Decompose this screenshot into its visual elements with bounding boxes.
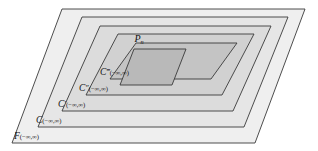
region-label-c-interval: (−∞,∞)	[42, 117, 61, 125]
region-label-pn-symbol: P	[133, 33, 140, 44]
region-label-f: F(−∞,∞)	[13, 131, 39, 141]
region-label-pn-subscript: n	[141, 38, 144, 45]
region-label-c-triple-prime-interval: (−∞,∞)	[110, 69, 129, 77]
region-label-f-interval: (−∞,∞)	[20, 133, 39, 141]
region-label-c-triple-prime: C‴(−∞,∞)	[100, 67, 129, 77]
region-label-c-double-prime: C″(−∞,∞)	[79, 83, 108, 93]
figure-container: F(−∞,∞) C(−∞,∞) C′(−∞,∞) C″(−∞,∞) C‴(−∞,…	[0, 0, 318, 151]
region-label-c-prime-interval: (−∞,∞)	[66, 101, 85, 109]
region-label-c: C(−∞,∞)	[36, 115, 62, 125]
region-label-c-prime: C′(−∞,∞)	[58, 99, 85, 109]
region-label-c-double-prime-interval: (−∞,∞)	[89, 85, 108, 93]
nested-regions-diagram: F(−∞,∞) C(−∞,∞) C′(−∞,∞) C″(−∞,∞) C‴(−∞,…	[0, 0, 318, 151]
